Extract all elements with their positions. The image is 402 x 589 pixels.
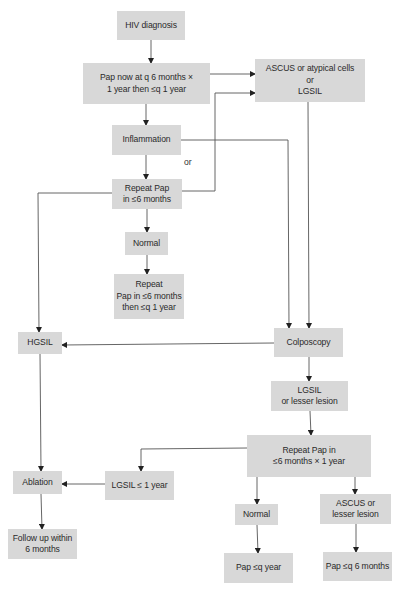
node-repeat-pap-6mo: Repeat Pap in ≤6 months	[112, 179, 182, 209]
node-ascus-lesser: ASCUS or lesser lesion	[320, 494, 391, 524]
node-pap-q-6mo: Pap ≤q 6 months	[323, 552, 392, 581]
node-hgsil: HGSIL	[18, 332, 62, 354]
node-normal-bottom: Normal	[235, 504, 278, 525]
node-repeat-pap-then-year: Repeat Pap in ≤6 months then ≤q 1 year	[114, 274, 184, 319]
node-inflammation: Inflammation	[112, 125, 181, 155]
node-normal-top: Normal	[125, 232, 168, 255]
flowchart: HIV diagnosis Pap now at q 6 months × 1 …	[0, 0, 402, 589]
node-ablation: Ablation	[13, 471, 62, 494]
node-ascus-lgsil: ASCUS or atypical cells or LGSIL	[255, 59, 365, 102]
node-hiv-diagnosis: HIV diagnosis	[117, 11, 185, 40]
or-label: or	[184, 157, 192, 167]
node-pap-q-year: Pap ≤q year	[224, 553, 293, 583]
node-lgsil-le-1yr: LGSIL ≤ 1 year	[105, 471, 174, 500]
node-repeat-pap-1yr: Repeat Pap in ≤6 months × 1 year	[247, 435, 371, 477]
node-lgsil-lesser: LGSIL or lesser lesion	[271, 381, 348, 411]
node-follow-up: Follow up within 6 months	[8, 529, 77, 559]
node-pap-now: Pap now at q 6 months × 1 year then ≤q 1…	[83, 63, 210, 104]
node-colposcopy: Colposcopy	[274, 328, 343, 357]
